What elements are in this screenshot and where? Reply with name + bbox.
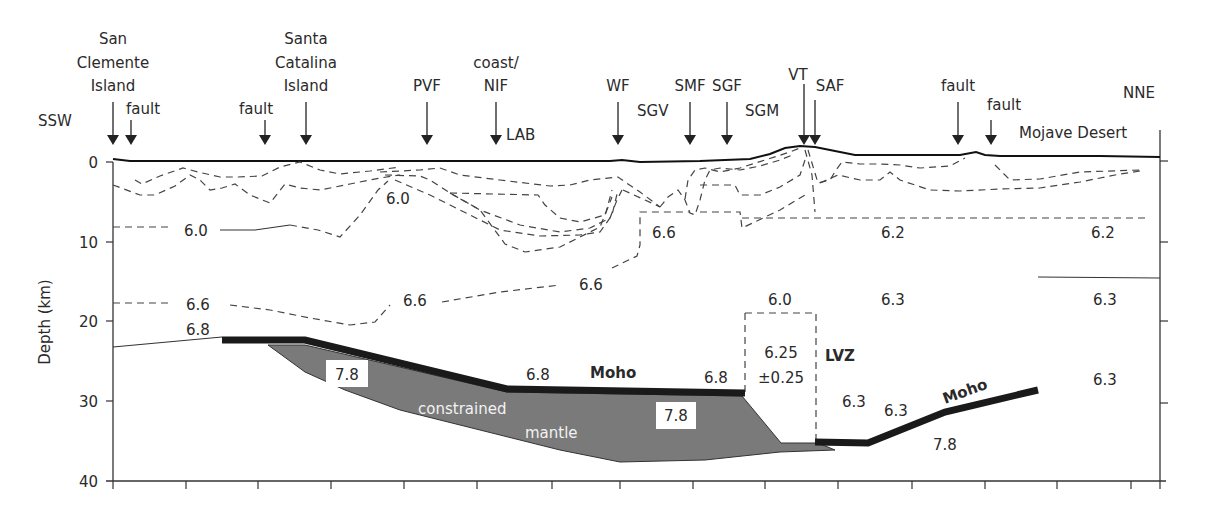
y-tick-30: 30 (79, 393, 98, 411)
velocity-label: 6.3 (1093, 291, 1117, 309)
velocity-label: 6.2 (1091, 224, 1115, 242)
velocity-label: 6.0 (768, 291, 792, 309)
arrow-fault-2 (259, 120, 271, 145)
label-smf: SMF (674, 77, 705, 95)
velocity-label: 6.6 (186, 296, 210, 314)
label-clemente: Clemente (77, 54, 149, 72)
arrow-santa-catalina (300, 102, 312, 145)
y-tick-labels: 0 10 20 30 40 (79, 154, 98, 491)
crust-interface-right (1038, 277, 1160, 278)
label-lab: LAB (506, 126, 535, 144)
lvz-label: LVZ (825, 347, 855, 365)
arrow-saf (809, 100, 821, 145)
velocity-label: 6.6 (579, 276, 603, 294)
label-mojave-desert: Mojave Desert (1019, 124, 1127, 142)
label-pvf: PVF (413, 77, 441, 95)
label-island-2: Island (284, 77, 329, 95)
lvz-uncertainty: ±0.25 (758, 369, 804, 387)
label-san: San (99, 30, 127, 48)
label-island-1: Island (91, 77, 136, 95)
surface-topography (113, 146, 1160, 162)
label-fault-2: fault (239, 100, 273, 118)
velocity-label: 6.8 (526, 366, 550, 384)
label-sgm: SGM (745, 102, 779, 120)
arrow-fault-4 (985, 120, 997, 145)
velocity-label: 6.3 (1093, 371, 1117, 389)
surface-marker-labels: San Clemente Island fault fault Santa Ca… (77, 30, 1021, 118)
velocity-label: 6.3 (881, 291, 905, 309)
y-tick-40: 40 (79, 473, 98, 491)
arrow-smf (684, 102, 696, 145)
arrow-sgf (721, 102, 733, 145)
arrow-wf (612, 102, 624, 145)
velocity-label: 6.3 (842, 393, 866, 411)
bottom-ticks (113, 481, 1160, 489)
label-wf: WF (606, 77, 629, 95)
crustal-cross-section: 0 10 20 30 40 Depth (km) SSW NNE (0, 0, 1208, 515)
velocity-label: 7.8 (933, 436, 957, 454)
y-tick-20: 20 (79, 313, 98, 331)
y-axis-label: Depth (km) (36, 279, 54, 364)
velocity-label: 6.2 (881, 224, 905, 242)
label-fault-1: fault (126, 100, 160, 118)
moho-label-left: Moho (590, 364, 636, 382)
label-nif: NIF (484, 77, 508, 95)
arrow-fault-3 (952, 102, 964, 145)
arrow-vt (798, 84, 810, 145)
velocity-label: 6.6 (403, 292, 427, 310)
velocity-label: 6.0 (386, 190, 410, 208)
velocity-label: 6.6 (652, 224, 676, 242)
boxed-velocity-label-left: 7.8 (335, 366, 359, 384)
label-fault-3: fault (941, 77, 975, 95)
label-fault-4: fault (987, 96, 1021, 114)
label-catalina: Catalina (275, 54, 337, 72)
label-sgf: SGF (712, 77, 742, 95)
mantle-label-constrained: constrained (418, 400, 506, 418)
direction-ssw: SSW (38, 112, 72, 130)
velocity-label: 6.8 (186, 321, 210, 339)
label-santa: Santa (284, 30, 327, 48)
velocity-label: 6.0 (184, 222, 208, 240)
lvz-value: 6.25 (764, 344, 797, 362)
label-vt: VT (788, 66, 808, 84)
y-tick-10: 10 (79, 234, 98, 252)
label-coast: coast/ (473, 54, 519, 72)
arrow-pvf (421, 102, 433, 145)
mantle-label-mantle: mantle (525, 424, 578, 442)
y-tick-0: 0 (88, 154, 98, 172)
arrow-san-clemente (107, 102, 119, 145)
velocity-label: 6.3 (884, 402, 908, 420)
arrow-fault-1 (125, 120, 137, 145)
arrow-coast-nif (490, 102, 502, 145)
boxed-velocity-label-right: 7.8 (664, 407, 688, 425)
label-saf: SAF (816, 77, 845, 95)
direction-nne: NNE (1123, 84, 1155, 102)
velocity-label: 6.8 (704, 369, 728, 387)
label-sgv: SGV (637, 102, 669, 120)
